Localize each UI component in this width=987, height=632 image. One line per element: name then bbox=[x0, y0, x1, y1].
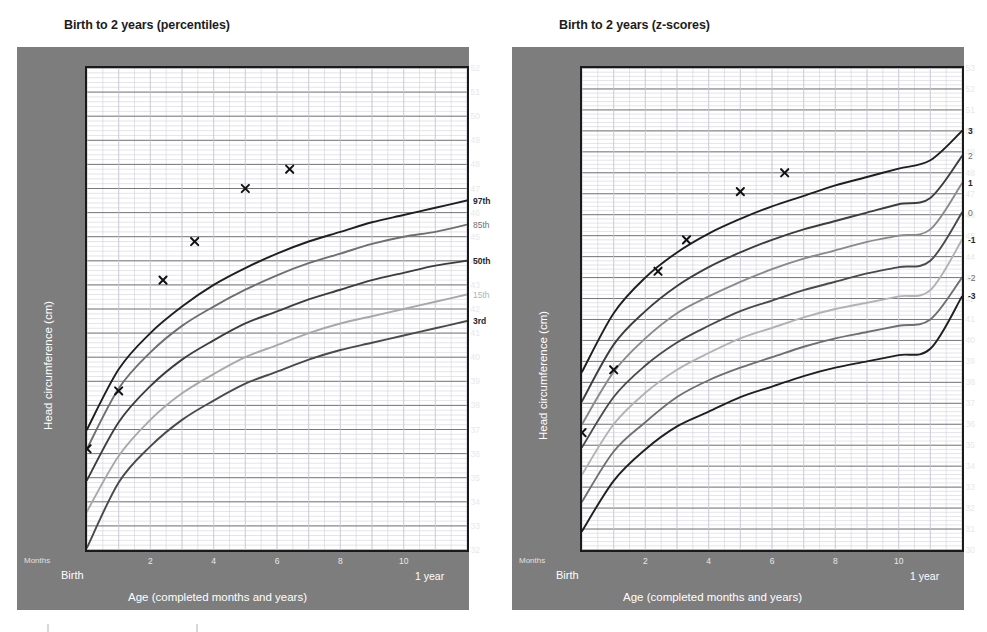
y-tick-label: 33 bbox=[913, 483, 979, 492]
y-tick-label: 35 bbox=[418, 473, 484, 482]
y-tick-label: 38 bbox=[913, 378, 979, 387]
chart-zscores: Birth to 2 years (z-scores) 535251504948… bbox=[499, 0, 979, 632]
x-axis-title-zscores: Age (completed months and years) bbox=[623, 591, 802, 603]
y-tick-label: 41 bbox=[913, 315, 979, 324]
y-tick-label: 51 bbox=[418, 88, 484, 97]
y-tick-label: 53 bbox=[913, 64, 979, 73]
chart-percentiles: Birth to 2 years (percentiles) 525150494… bbox=[4, 0, 484, 632]
y-tick-label: 34 bbox=[913, 462, 979, 471]
x-tick-label: 2 bbox=[148, 556, 153, 566]
x-tick-label: 4 bbox=[706, 556, 711, 566]
y-tick-label: 30 bbox=[913, 546, 979, 555]
panel-top-band bbox=[512, 47, 964, 66]
y-tick-label: 51 bbox=[913, 106, 979, 115]
y-tick-label: 38 bbox=[418, 401, 484, 410]
x-tick-label: 8 bbox=[338, 556, 343, 566]
curve-end-label: -3 bbox=[968, 291, 976, 301]
one-year-label-zscores: 1 year bbox=[910, 570, 939, 582]
y-tick-label: 52 bbox=[418, 64, 484, 73]
x-tick-label: 10 bbox=[894, 556, 903, 566]
months-label-zscores: Months bbox=[519, 556, 545, 565]
y-tick-label: 39 bbox=[418, 377, 484, 386]
curve-end-label: 2 bbox=[968, 151, 973, 161]
curve-end-label: 3 bbox=[968, 126, 973, 136]
x-tick-label: 10 bbox=[399, 556, 408, 566]
x-tick-label: 2 bbox=[643, 556, 648, 566]
chart-title-zscores: Birth to 2 years (z-scores) bbox=[559, 18, 710, 32]
scan-artifact-right bbox=[196, 624, 198, 632]
y-tick-label: 50 bbox=[418, 112, 484, 121]
y-tick-label: 36 bbox=[418, 449, 484, 458]
curve-end-label: 0 bbox=[968, 208, 973, 218]
x-tick-label: 4 bbox=[211, 556, 216, 566]
curve-end-label: -2 bbox=[968, 273, 976, 283]
y-axis-title-zscores: Head circumference (cm) bbox=[537, 311, 549, 440]
chart-title-percentiles: Birth to 2 years (percentiles) bbox=[64, 18, 230, 32]
birth-label-percentiles: Birth bbox=[61, 569, 84, 581]
y-tick-label: 45 bbox=[418, 232, 484, 241]
months-label-percentiles: Months bbox=[24, 556, 50, 565]
y-tick-label: 41 bbox=[418, 329, 484, 338]
y-tick-label: 47 bbox=[913, 189, 979, 198]
curve-end-label: -1 bbox=[968, 235, 976, 245]
plot-area-percentiles bbox=[85, 66, 469, 552]
plot-area-zscores bbox=[580, 66, 964, 552]
curve-end-label: 50th bbox=[473, 256, 490, 266]
curve-end-label: 3rd bbox=[473, 316, 486, 326]
y-tick-label: 46 bbox=[418, 208, 484, 217]
y-tick-label: 48 bbox=[418, 160, 484, 169]
scan-artifact-left bbox=[47, 624, 49, 632]
y-tick-label: 33 bbox=[418, 522, 484, 531]
y-tick-label: 49 bbox=[418, 136, 484, 145]
x-tick-label: 6 bbox=[275, 556, 280, 566]
panel-top-band bbox=[17, 47, 469, 66]
y-tick-label: 52 bbox=[913, 85, 979, 94]
y-axis-title-percentiles: Head circumference (cm) bbox=[42, 301, 54, 430]
y-tick-label: 36 bbox=[913, 420, 979, 429]
y-tick-label: 32 bbox=[913, 504, 979, 513]
y-tick-label: 43 bbox=[418, 281, 484, 290]
y-tick-label: 37 bbox=[418, 425, 484, 434]
birth-label-zscores: Birth bbox=[556, 569, 579, 581]
y-tick-label: 35 bbox=[913, 441, 979, 450]
one-year-label-percentiles: 1 year bbox=[415, 570, 444, 582]
y-tick-label: 47 bbox=[418, 184, 484, 193]
y-tick-label: 40 bbox=[418, 353, 484, 362]
y-tick-label: 39 bbox=[913, 357, 979, 366]
curve-end-label: 1 bbox=[968, 178, 973, 188]
panel-left-rail bbox=[512, 47, 580, 552]
y-tick-label: 32 bbox=[418, 546, 484, 555]
x-tick-label: 6 bbox=[770, 556, 775, 566]
y-tick-label: 31 bbox=[913, 525, 979, 534]
y-tick-label: 42 bbox=[418, 305, 484, 314]
y-tick-label: 44 bbox=[913, 252, 979, 261]
y-tick-label: 37 bbox=[913, 399, 979, 408]
curve-end-label: 85th bbox=[473, 220, 490, 230]
curve-end-label: 15th bbox=[473, 290, 490, 300]
y-tick-label: 40 bbox=[913, 336, 979, 345]
y-tick-label: 48 bbox=[913, 169, 979, 178]
y-tick-label: 34 bbox=[418, 498, 484, 507]
panel-left-rail bbox=[17, 47, 85, 552]
curve-end-label: 97th bbox=[473, 196, 490, 206]
x-tick-label: 8 bbox=[833, 556, 838, 566]
x-axis-title-percentiles: Age (completed months and years) bbox=[128, 591, 307, 603]
